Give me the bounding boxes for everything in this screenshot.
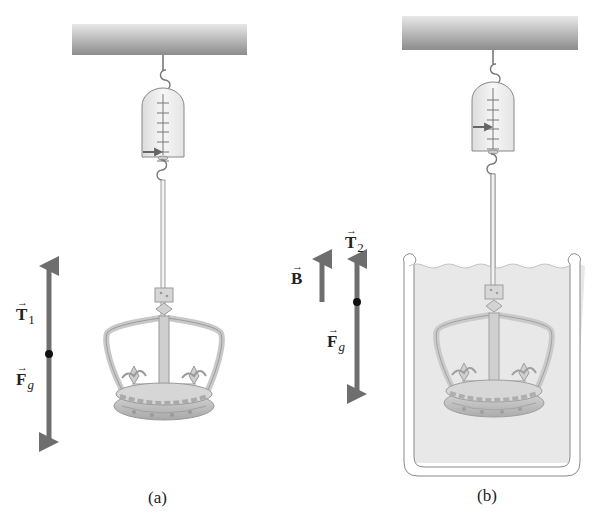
center-point-a [45,350,53,358]
label-fg-a: →Fg [16,371,34,391]
panel-a [45,24,247,442]
caption-b: (b) [477,486,497,506]
label-b: →B [291,270,302,287]
ceiling-b [402,16,578,50]
center-point-b [353,298,361,306]
ceiling-a [72,24,247,55]
label-t2: →T2 [345,234,364,254]
label-fg-b: →Fg [327,333,345,353]
label-t1: →T1 [16,306,35,326]
caption-a: (a) [148,488,167,508]
crown-a [106,288,222,420]
